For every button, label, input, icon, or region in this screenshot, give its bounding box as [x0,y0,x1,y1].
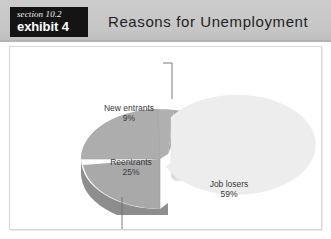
exhibit-label: exhibit 4 [17,19,82,34]
slice-label-job-losers: Job losers 59% [193,179,265,199]
slice-label-reentrants: Reentrants 25% [95,157,167,177]
slice-label-name: Reentrants [95,157,167,167]
exhibit-header-band: section 10.2 exhibit 4 Reasons for Unemp… [0,0,331,42]
pie-chart-svg [10,47,321,229]
slice-label-name: Job losers [193,179,265,189]
slice-label-new-entrants: New entrants 9% [86,103,172,123]
pie-chart: New entrants 9% Reentrants 25% Job loser… [10,47,321,229]
slice-label-value: 9% [86,113,172,123]
slice-label-name: New entrants [86,103,172,113]
page-title: Reasons for Unemployment [108,12,308,32]
exhibit-tag: section 10.2 exhibit 4 [10,7,88,37]
section-label: section 10.2 [17,9,82,19]
chart-frame: New entrants 9% Reentrants 25% Job loser… [9,46,322,230]
slice-label-value: 25% [95,167,167,177]
leader-line-new-entrants [163,63,172,99]
exhibit-figure: section 10.2 exhibit 4 Reasons for Unemp… [0,0,331,239]
slice-label-value: 59% [193,189,265,199]
